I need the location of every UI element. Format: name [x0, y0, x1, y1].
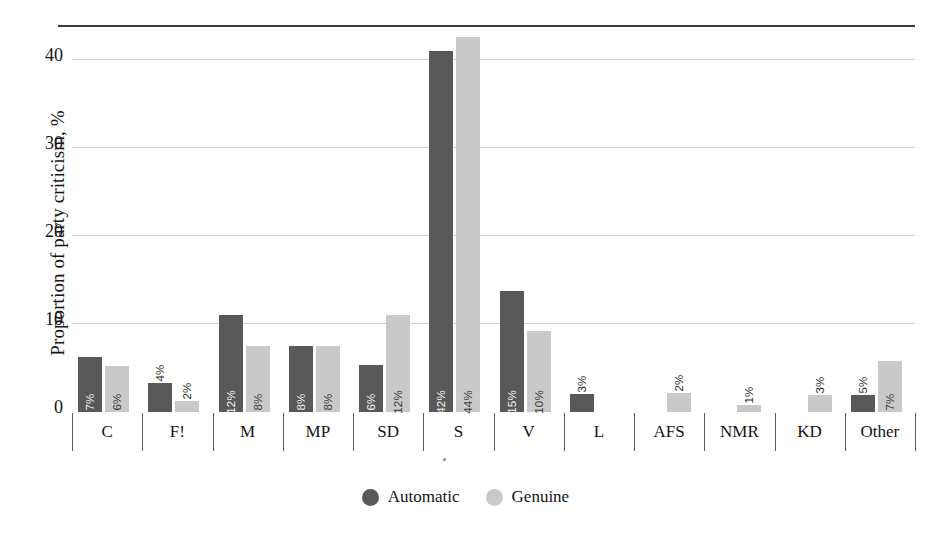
- bar-genuine-F: 2%: [175, 401, 199, 412]
- x-axis-tick: [564, 413, 565, 451]
- x-tick-label-C: C: [72, 413, 142, 453]
- chart-legend: AutomaticGenuine: [0, 487, 931, 507]
- bar-genuine-M: 8%: [246, 346, 270, 412]
- data-label: 8%: [252, 393, 264, 410]
- bar-genuine-KD: 3%: [808, 395, 832, 412]
- data-label: 6%: [111, 393, 123, 410]
- bar-groups: 7%6%4%2%12%8%8%8%6%12%42%44%15%10%3%2%1%…: [72, 25, 915, 412]
- x-axis-tick: [634, 413, 635, 451]
- bar-genuine-AFS: 2%: [667, 393, 691, 412]
- bar-group-C: 7%6%: [72, 25, 142, 412]
- bar-group-F: 4%2%: [142, 25, 212, 412]
- data-label: 7%: [884, 393, 896, 410]
- x-tick-label-SD: SD: [353, 413, 423, 453]
- x-axis-categories: CF!MMPSDSVLAFSNMRKDOther: [58, 413, 915, 453]
- data-label: 10%: [533, 390, 545, 414]
- bar-group-M: 12%8%: [213, 25, 283, 412]
- x-axis-tick: [423, 413, 424, 451]
- bar-genuine-SD: 12%: [386, 315, 410, 412]
- bar-group-Other: 5%7%: [845, 25, 915, 412]
- data-label: 2%: [181, 382, 193, 399]
- bar-genuine-V: 10%: [527, 331, 551, 412]
- bar-automatic-C: 7%: [78, 357, 102, 412]
- artifact-dot: [443, 458, 446, 461]
- legend-swatch-icon: [362, 489, 379, 506]
- x-axis-tick: [353, 413, 354, 451]
- bar-automatic-L: 3%: [570, 394, 594, 412]
- x-tick-label-V: V: [494, 413, 564, 453]
- data-label: 5%: [857, 377, 869, 394]
- y-tick-label-40: 40: [45, 45, 63, 66]
- bar-group-KD: 3%: [775, 25, 845, 412]
- data-label: 8%: [322, 393, 334, 410]
- bar-group-AFS: 2%: [634, 25, 704, 412]
- bar-automatic-V: 15%: [500, 291, 524, 412]
- bar-group-MP: 8%8%: [283, 25, 353, 412]
- x-tick-label-S: S: [423, 413, 493, 453]
- data-label: 8%: [295, 393, 307, 410]
- data-label: 4%: [154, 364, 166, 381]
- x-tick-label-MP: MP: [283, 413, 353, 453]
- data-label: 15%: [506, 390, 518, 414]
- x-tick-label-NMR: NMR: [704, 413, 774, 453]
- bar-automatic-S: 42%: [429, 51, 453, 412]
- x-axis-tick: [283, 413, 284, 451]
- bar-genuine-NMR: 1%: [737, 405, 761, 412]
- bar-group-NMR: 1%: [704, 25, 774, 412]
- x-axis-tick: [213, 413, 214, 451]
- x-axis-line: [58, 25, 915, 27]
- bar-group-S: 42%44%: [423, 25, 493, 412]
- legend-swatch-icon: [486, 489, 503, 506]
- data-label: 3%: [814, 377, 826, 394]
- x-axis-tick: [704, 413, 705, 451]
- x-tick-label-Other: Other: [845, 413, 915, 453]
- plot-area: 010203040 7%6%4%2%12%8%8%8%6%12%42%44%15…: [72, 25, 915, 412]
- x-tick-label-M: M: [213, 413, 283, 453]
- y-tick-label-30: 30: [45, 133, 63, 154]
- x-axis-tick: [72, 413, 73, 451]
- x-axis-tick: [845, 413, 846, 451]
- x-axis-tick: [494, 413, 495, 451]
- data-label: 2%: [673, 374, 685, 391]
- bar-group-SD: 6%12%: [353, 25, 423, 412]
- data-label: 3%: [576, 376, 588, 393]
- bar-genuine-C: 6%: [105, 366, 129, 412]
- bar-automatic-MP: 8%: [289, 346, 313, 412]
- data-label: 12%: [392, 390, 404, 414]
- bar-automatic-F: 4%: [148, 383, 172, 412]
- y-tick-label-10: 10: [45, 309, 63, 330]
- legend-item-genuine[interactable]: Genuine: [486, 487, 570, 507]
- bar-automatic-M: 12%: [219, 315, 243, 412]
- bar-automatic-Other: 5%: [851, 395, 875, 412]
- bar-group-V: 15%10%: [494, 25, 564, 412]
- legend-item-automatic[interactable]: Automatic: [362, 487, 460, 507]
- bar-group-L: 3%: [564, 25, 634, 412]
- data-label: 44%: [462, 390, 474, 414]
- data-label: 42%: [435, 390, 447, 414]
- y-tick-label-20: 20: [45, 221, 63, 242]
- bar-genuine-Other: 7%: [878, 361, 902, 412]
- bar-genuine-S: 44%: [456, 37, 480, 412]
- legend-label: Automatic: [388, 487, 460, 507]
- data-label: 1%: [743, 386, 755, 403]
- x-tick-label-KD: KD: [775, 413, 845, 453]
- bar-chart: Proportion of party criticism, % 0102030…: [0, 0, 931, 534]
- data-label: 12%: [225, 390, 237, 414]
- x-tick-label-L: L: [564, 413, 634, 453]
- x-axis-tick: [775, 413, 776, 451]
- x-tick-label-AFS: AFS: [634, 413, 704, 453]
- data-label: 6%: [365, 393, 377, 410]
- data-label: 7%: [84, 393, 96, 410]
- legend-label: Genuine: [512, 487, 570, 507]
- bar-genuine-MP: 8%: [316, 346, 340, 412]
- x-tick-label-F: F!: [142, 413, 212, 453]
- bar-automatic-SD: 6%: [359, 365, 383, 412]
- x-axis-tick: [142, 413, 143, 451]
- x-axis-tick: [915, 413, 916, 451]
